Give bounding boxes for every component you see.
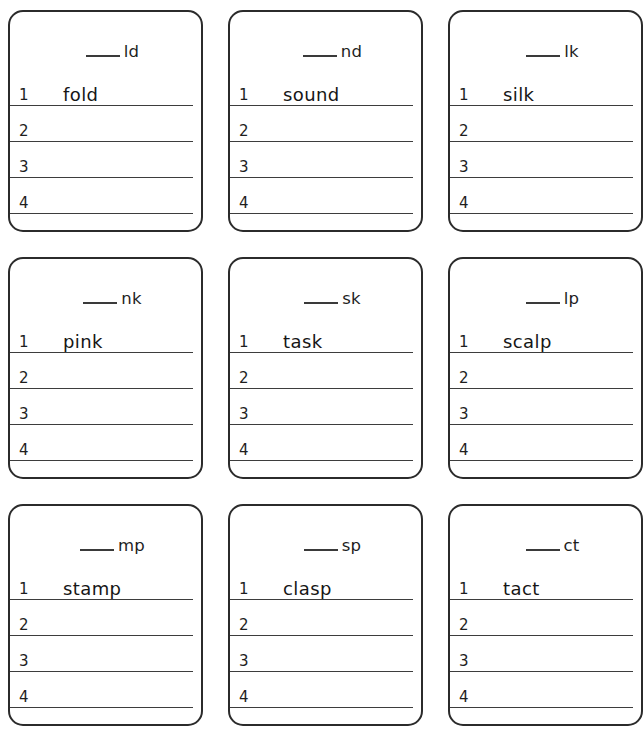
writing-line-row[interactable]: 3 [10, 389, 201, 425]
writing-line-row[interactable]: 2 [10, 106, 201, 142]
writing-line-row[interactable]: 2 [450, 106, 641, 142]
line-number: 3 [19, 160, 29, 175]
writing-line-row[interactable]: 3 [450, 389, 641, 425]
line-number: 4 [239, 443, 249, 458]
writing-line-row[interactable]: 2 [450, 353, 641, 389]
consonant-blend-label: lp [564, 291, 579, 308]
line-number: 4 [19, 443, 29, 458]
writing-line-row[interactable]: 3 [230, 142, 421, 178]
line-number: 3 [19, 654, 29, 669]
writing-line-row[interactable]: 4 [230, 425, 421, 461]
line-number: 2 [19, 371, 29, 386]
writing-line-row[interactable]: 4 [10, 178, 201, 214]
answer-word[interactable]: pink [63, 333, 103, 351]
writing-line-row[interactable]: 4 [10, 672, 201, 708]
consonant-blend-label: ct [564, 538, 580, 555]
blank-underscore [526, 549, 560, 551]
writing-lines: 1task234 [230, 317, 421, 461]
line-number: 2 [239, 371, 249, 386]
writing-line-row[interactable]: 2 [230, 353, 421, 389]
line-number: 2 [459, 371, 469, 386]
writing-lines: 1scalp234 [450, 317, 641, 461]
rule-line [450, 213, 633, 214]
line-number: 3 [239, 654, 249, 669]
word-family-card: sk1task234 [228, 257, 423, 479]
writing-line-row[interactable]: 2 [10, 353, 201, 389]
line-number: 2 [459, 618, 469, 633]
writing-line-row[interactable]: 1tact [450, 564, 641, 600]
writing-lines: 1clasp234 [230, 564, 421, 708]
consonant-blend-label: nd [341, 44, 362, 61]
answer-word[interactable]: stamp [63, 580, 121, 598]
rule-line [450, 707, 633, 708]
answer-word[interactable]: tact [503, 580, 540, 598]
line-number: 3 [239, 407, 249, 422]
line-number: 1 [459, 335, 469, 350]
line-number: 4 [459, 443, 469, 458]
writing-lines: 1fold234 [10, 70, 201, 214]
word-family-card: ld1fold234 [8, 10, 203, 232]
writing-line-row[interactable]: 4 [450, 672, 641, 708]
writing-lines: 1pink234 [10, 317, 201, 461]
answer-word[interactable]: scalp [503, 333, 552, 351]
blank-underscore [304, 549, 338, 551]
writing-line-row[interactable]: 1silk [450, 70, 641, 106]
card-header: lk [450, 36, 641, 60]
writing-line-row[interactable]: 3 [230, 389, 421, 425]
writing-lines: 1tact234 [450, 564, 641, 708]
writing-line-row[interactable]: 1task [230, 317, 421, 353]
rule-line [230, 707, 413, 708]
writing-line-row[interactable]: 1pink [10, 317, 201, 353]
line-number: 1 [239, 582, 249, 597]
writing-line-row[interactable]: 3 [10, 636, 201, 672]
answer-word[interactable]: sound [283, 86, 340, 104]
line-number: 4 [239, 196, 249, 211]
line-number: 2 [459, 124, 469, 139]
writing-line-row[interactable]: 4 [10, 425, 201, 461]
writing-line-row[interactable]: 3 [230, 636, 421, 672]
answer-word[interactable]: silk [503, 86, 534, 104]
writing-line-row[interactable]: 1stamp [10, 564, 201, 600]
rule-line [230, 460, 413, 461]
line-number: 3 [459, 407, 469, 422]
writing-line-row[interactable]: 3 [450, 142, 641, 178]
writing-line-row[interactable]: 2 [450, 600, 641, 636]
line-number: 3 [459, 160, 469, 175]
writing-line-row[interactable]: 2 [230, 106, 421, 142]
answer-word[interactable]: clasp [283, 580, 332, 598]
word-family-card: ct1tact234 [448, 504, 643, 726]
writing-line-row[interactable]: 1clasp [230, 564, 421, 600]
card-header: sp [230, 530, 421, 554]
line-number: 2 [19, 618, 29, 633]
answer-word[interactable]: task [283, 333, 323, 351]
writing-lines: 1sound234 [230, 70, 421, 214]
writing-line-row[interactable]: 3 [10, 142, 201, 178]
blank-underscore [80, 549, 114, 551]
writing-line-row[interactable]: 2 [230, 600, 421, 636]
line-number: 1 [239, 335, 249, 350]
writing-line-row[interactable]: 1fold [10, 70, 201, 106]
writing-line-row[interactable]: 4 [230, 178, 421, 214]
line-number: 1 [19, 335, 29, 350]
card-header: ct [450, 530, 641, 554]
writing-lines: 1silk234 [450, 70, 641, 214]
writing-line-row[interactable]: 1sound [230, 70, 421, 106]
line-number: 3 [459, 654, 469, 669]
writing-line-row[interactable]: 1scalp [450, 317, 641, 353]
line-number: 4 [459, 690, 469, 705]
card-header: nk [10, 283, 201, 307]
line-number: 1 [239, 88, 249, 103]
writing-line-row[interactable]: 2 [10, 600, 201, 636]
consonant-blend-label: ld [124, 44, 139, 61]
blank-underscore [83, 302, 117, 304]
line-number: 4 [19, 196, 29, 211]
writing-line-row[interactable]: 4 [450, 178, 641, 214]
writing-lines: 1stamp234 [10, 564, 201, 708]
writing-line-row[interactable]: 3 [450, 636, 641, 672]
writing-line-row[interactable]: 4 [230, 672, 421, 708]
blank-underscore [303, 55, 337, 57]
blank-underscore [526, 302, 560, 304]
blank-underscore [304, 302, 338, 304]
writing-line-row[interactable]: 4 [450, 425, 641, 461]
answer-word[interactable]: fold [63, 86, 98, 104]
